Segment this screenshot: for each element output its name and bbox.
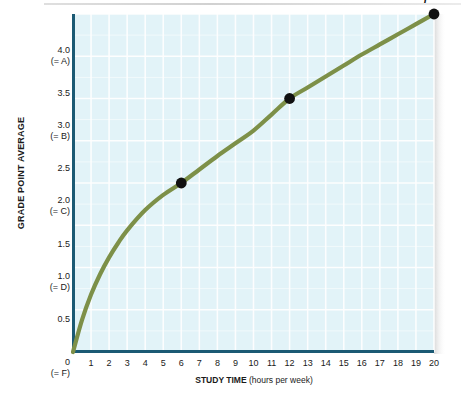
data-point-w xyxy=(176,178,187,189)
data-point-y xyxy=(429,9,440,20)
plot-shadow xyxy=(434,14,446,354)
chart-canvas xyxy=(0,0,461,408)
data-point-x xyxy=(284,93,295,104)
chart-figure: GRADE POINT AVERAGE 4.0 (= A) 3.5 3.0 (=… xyxy=(0,0,461,408)
